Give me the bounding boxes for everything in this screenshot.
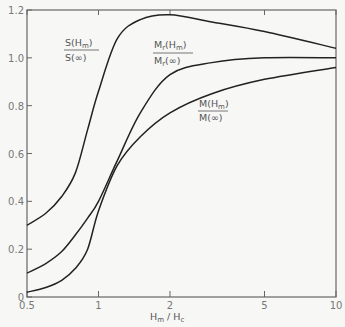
- svg-text:S(Hm): S(Hm): [65, 37, 92, 50]
- x-tick-label: 5: [261, 300, 267, 311]
- y-tick-label: 0.8: [8, 101, 24, 112]
- y-axis: 00.20.40.60.81.01.2: [8, 5, 32, 303]
- x-tick-label: 2: [167, 300, 173, 311]
- x-tick-label: 1: [95, 300, 101, 311]
- label-mr: Mr(Hm) Mr(∞): [153, 39, 193, 68]
- svg-text:S(∞): S(∞): [65, 52, 86, 63]
- y-tick-label: 0.6: [8, 149, 24, 160]
- label-m: M(Hm) M(∞): [198, 98, 229, 123]
- svg-text:M(Hm): M(Hm): [199, 98, 229, 111]
- x-tick-label: 0.5: [19, 300, 35, 311]
- label-s: S(Hm) S(∞): [64, 37, 99, 63]
- y-tick-label: 0.4: [8, 196, 24, 207]
- y-tick-label: 1.2: [8, 5, 24, 16]
- svg-text:Mr(Hm): Mr(Hm): [154, 39, 187, 52]
- chart: 00.20.40.60.81.01.2 0.512510 S(Hm) S(∞) …: [0, 0, 345, 327]
- x-axis-label: Hm / Hc: [150, 311, 184, 324]
- y-tick-label: 0.2: [8, 244, 24, 255]
- series-line: [27, 67, 336, 292]
- svg-text:M(∞): M(∞): [199, 112, 223, 123]
- svg-text:Mr(∞): Mr(∞): [154, 55, 180, 68]
- series-line: [27, 57, 336, 273]
- x-tick-label: 10: [330, 300, 343, 311]
- y-tick-label: 1.0: [8, 53, 24, 64]
